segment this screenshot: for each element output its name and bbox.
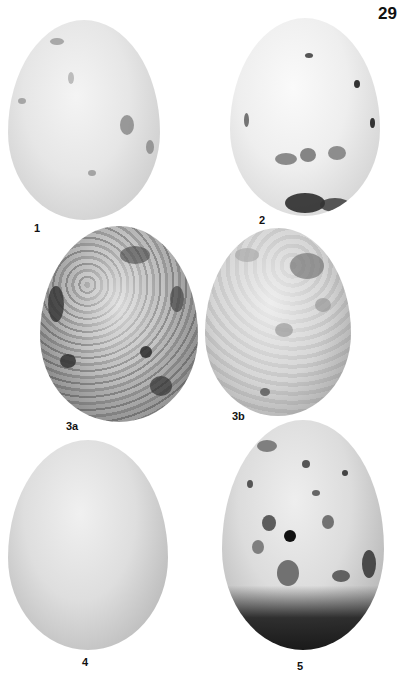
egg-2-image — [230, 18, 380, 216]
egg-4-image — [8, 440, 168, 650]
egg-4-label: 4 — [82, 656, 88, 668]
egg-2-label: 2 — [259, 214, 265, 226]
egg-5-image — [222, 420, 384, 650]
egg-5-label: 5 — [297, 660, 303, 672]
egg-3b-image — [205, 228, 351, 416]
egg-3a-label: 3a — [66, 420, 78, 432]
egg-1-image — [8, 20, 160, 220]
egg-1-label: 1 — [34, 222, 40, 234]
egg-3a-image — [40, 226, 198, 422]
page-number: 29 — [378, 4, 397, 24]
egg-3b-label: 3b — [232, 410, 245, 422]
